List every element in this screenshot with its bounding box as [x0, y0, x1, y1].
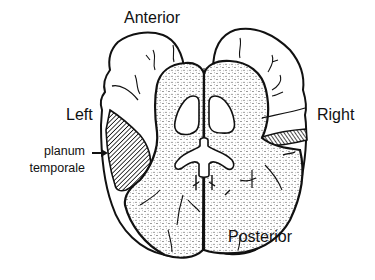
label-right: Right — [317, 107, 354, 123]
brain-diagram: Anterior Posterior Left Right planum tem… — [0, 0, 375, 280]
label-planum: planum — [37, 145, 85, 158]
label-temporale: temporale — [20, 162, 85, 175]
label-posterior: Posterior — [228, 229, 292, 245]
label-left: Left — [66, 107, 93, 123]
brain-section-illustration — [0, 0, 375, 280]
label-anterior: Anterior — [124, 10, 180, 26]
